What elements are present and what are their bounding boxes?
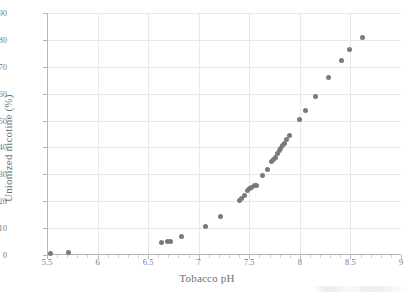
data-point [159, 240, 164, 245]
x-axis-minor-tick [67, 255, 68, 258]
data-point [339, 58, 344, 63]
y-axis-tick-label: 70 [0, 63, 7, 72]
x-axis-tick-label: 5.5 [27, 258, 67, 267]
x-axis-minor-tick [168, 255, 169, 258]
data-point [360, 35, 365, 40]
y-axis-title: Unionized nicotine (%) [2, 188, 14, 202]
data-point [303, 108, 308, 113]
x-axis-title: Tobacco pH [0, 272, 414, 284]
data-point [168, 239, 173, 244]
x-axis-tick-label: 6 [78, 258, 118, 267]
data-point [347, 47, 352, 52]
data-point [260, 173, 265, 178]
data-point [242, 193, 247, 198]
x-axis-minor-tick [219, 255, 220, 258]
x-axis-tick-label: 9 [381, 258, 414, 267]
x-axis-tick-label: 8.5 [330, 258, 370, 267]
data-point [287, 133, 292, 138]
x-axis-tick-label: 6.5 [128, 258, 168, 267]
data-points [47, 13, 401, 255]
x-axis-minor-tick [371, 255, 372, 258]
data-point [326, 75, 331, 80]
x-axis-tick-label: 7 [179, 258, 219, 267]
data-point [66, 250, 71, 255]
x-axis-minor-tick [118, 255, 119, 258]
data-point [48, 251, 53, 256]
plot-area [47, 13, 401, 255]
y-axis-tick-label: 10 [0, 224, 7, 233]
scatter-plot-figure: 0102030405060708090 5.566.577.588.59 Tob… [0, 0, 414, 293]
data-point [254, 183, 259, 188]
x-axis-tick-label: 7.5 [229, 258, 269, 267]
data-point [313, 94, 318, 99]
scan-artifact [312, 286, 408, 292]
y-axis-tick-label: 80 [0, 36, 7, 45]
data-point [179, 234, 184, 239]
data-point [284, 137, 289, 142]
x-axis-tick-label: 8 [280, 258, 320, 267]
data-point [297, 117, 302, 122]
x-axis-minor-tick [270, 255, 271, 258]
data-point [203, 224, 208, 229]
data-point [218, 214, 223, 219]
x-axis-minor-tick [320, 255, 321, 258]
y-axis-tick-label: 0 [0, 251, 7, 260]
y-axis-tick-label: 90 [0, 9, 7, 18]
data-point [265, 167, 270, 172]
